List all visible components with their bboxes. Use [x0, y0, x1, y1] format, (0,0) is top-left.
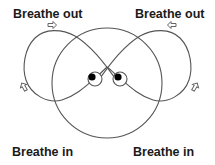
arrow-icon-top-left	[48, 22, 57, 29]
large-circle	[52, 28, 162, 138]
left-eye-dot	[88, 73, 95, 80]
diagram-canvas	[0, 0, 215, 165]
arrow-icon-right-side	[190, 81, 200, 92]
right-lobe-path	[97, 31, 191, 101]
arrow-icon-top-right	[168, 22, 177, 29]
right-eye-dot	[114, 73, 121, 80]
